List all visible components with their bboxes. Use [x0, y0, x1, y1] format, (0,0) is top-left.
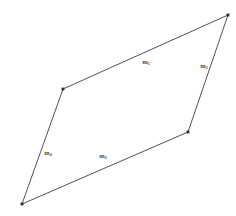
quadrilateral-figure: m1 m2 m3 m4	[0, 0, 236, 216]
edge-label-top-subscript: 1	[148, 61, 150, 66]
edge-label-bottom-subscript: 3	[105, 155, 107, 160]
vertex-marker-left	[62, 88, 65, 91]
edge-label-left-subscript: 4	[50, 152, 52, 157]
vertex-marker-top-right	[227, 14, 230, 17]
vertex-marker-bottom-left	[21, 203, 24, 206]
edge-label-right-subscript: 2	[206, 65, 208, 70]
quadrilateral-svg	[0, 0, 236, 216]
edge-label-bottom: m3	[99, 153, 106, 160]
edge-label-left: m4	[44, 150, 51, 157]
vertex-marker-bottom-right	[187, 131, 190, 134]
edge-label-right: m2	[200, 63, 207, 70]
edge-label-top: m1	[142, 59, 149, 66]
quadrilateral-outline	[22, 15, 228, 204]
